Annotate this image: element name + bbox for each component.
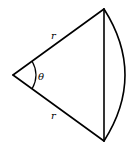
radius-label-bottom: r [51, 110, 57, 121]
angle-label: θ [38, 71, 44, 82]
radius-line-top [13, 9, 104, 75]
angle-arc [32, 61, 36, 89]
sector-diagram: r r θ [0, 0, 132, 150]
sector-arc [104, 9, 125, 141]
radius-label-top: r [51, 30, 57, 41]
radius-line-bottom [13, 75, 104, 141]
